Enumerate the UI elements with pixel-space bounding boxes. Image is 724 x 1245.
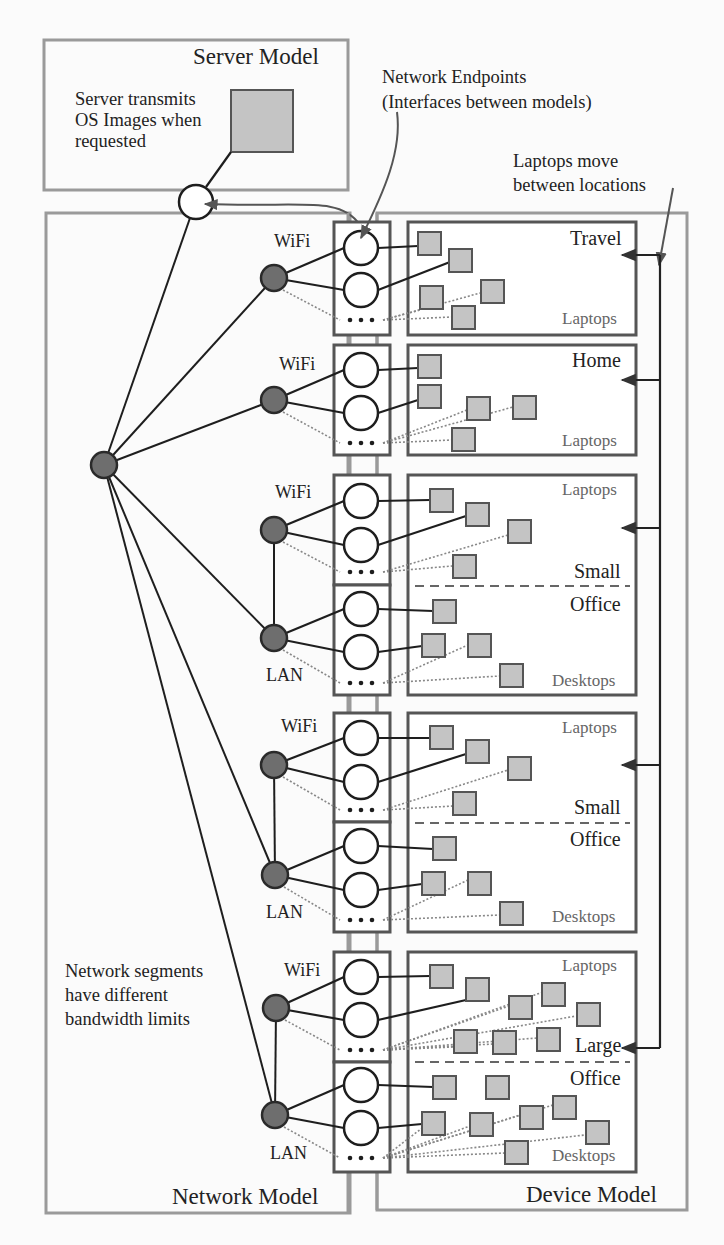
server-model-title: Server Model: [193, 45, 319, 69]
segment-label-wifi: WiFi: [274, 232, 310, 251]
server-icon: [231, 90, 293, 152]
segment-label-lan: LAN: [270, 1144, 307, 1163]
category-laptops-label: Laptops: [562, 957, 617, 975]
server-note-line-3: requested: [75, 132, 146, 151]
category-desktops-label: Desktops: [552, 1147, 615, 1165]
segment-label-lan: LAN: [266, 903, 303, 922]
network-note-line-3: bandwidth limits: [65, 1010, 190, 1029]
category-laptops-label: Laptops: [562, 719, 617, 737]
laptops-move-annotation-line-1: Laptops move: [513, 152, 618, 171]
endpoints-annotation-line-2: (Interfaces between models): [382, 93, 592, 112]
location-office-label: Office: [570, 829, 621, 850]
location-travel-label: Travel: [570, 228, 621, 249]
location-large-label: Large: [575, 1035, 621, 1056]
location-small-label: Small: [574, 561, 621, 582]
location-office-label: Office: [570, 1068, 621, 1089]
laptops-move-annotation-line-2: between locations: [513, 176, 646, 195]
category-desktops-label: Desktops: [552, 672, 615, 690]
network-model-title: Network Model: [172, 1185, 318, 1209]
device-model-title: Device Model: [526, 1183, 657, 1207]
network-note-line-2: have different: [65, 986, 168, 1005]
segment-label-wifi: WiFi: [284, 961, 320, 980]
server-note-line-1: Server transmits: [75, 90, 196, 109]
segment-label-wifi: WiFi: [275, 483, 311, 502]
category-laptops-label: Laptops: [562, 310, 617, 328]
location-office-label: Office: [570, 594, 621, 615]
location-small-label: Small: [574, 797, 621, 818]
network-note-line-1: Network segments: [65, 962, 203, 981]
server-endpoint: [179, 185, 213, 219]
category-laptops-label: Laptops: [562, 432, 617, 450]
segment-label-wifi: WiFi: [279, 355, 315, 374]
segment-label-wifi: WiFi: [281, 717, 317, 736]
category-desktops-label: Desktops: [552, 908, 615, 926]
segment-label-lan: LAN: [266, 666, 303, 685]
server-note-line-2: OS Images when: [75, 111, 201, 130]
category-laptops-label: Laptops: [562, 481, 617, 499]
endpoints-annotation-line-1: Network Endpoints: [382, 68, 526, 87]
location-home-label: Home: [572, 350, 621, 371]
